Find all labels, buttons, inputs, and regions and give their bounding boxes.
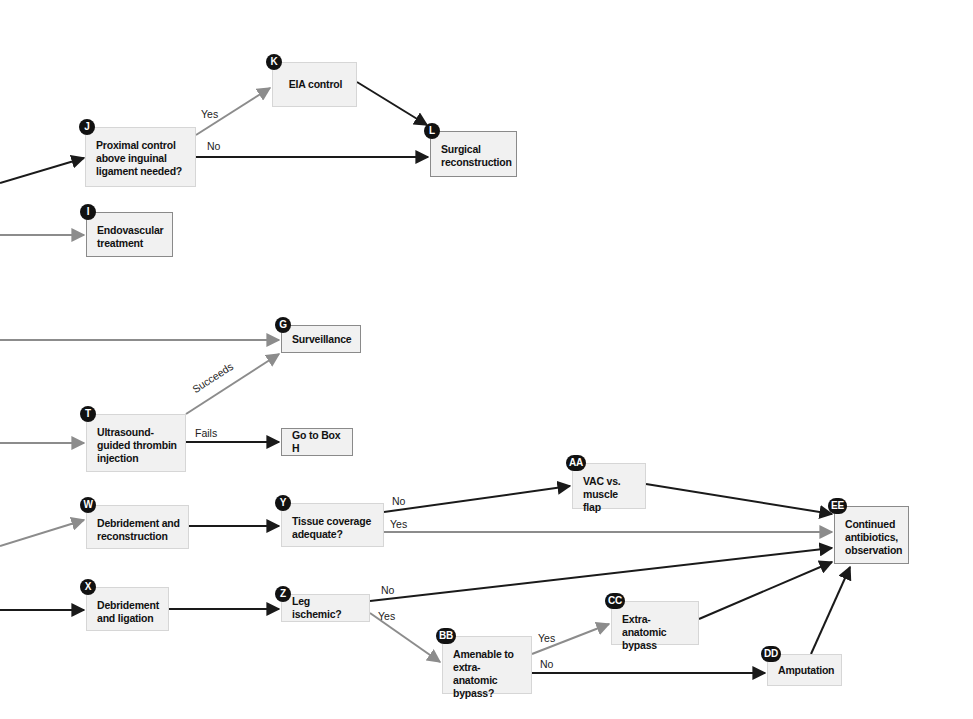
node-X-text: Debridement and ligation xyxy=(97,599,160,625)
label-j-yes: Yes xyxy=(201,108,218,120)
node-K-text: EIA control xyxy=(289,78,342,91)
node-DD: DD Amputation xyxy=(767,654,842,686)
label-bb-no: No xyxy=(540,658,553,670)
node-K: K EIA control xyxy=(272,62,357,107)
badge-G: G xyxy=(275,317,291,333)
edge-into-J xyxy=(0,158,84,183)
edge-DD-EE xyxy=(811,567,850,654)
badge-AA: AA xyxy=(566,455,586,471)
node-Z: Z Leg ischemic? xyxy=(281,594,370,622)
node-H-text: Go to Box H xyxy=(292,429,344,455)
node-Z-text: Leg ischemic? xyxy=(292,595,361,621)
node-EE: EE Continued antibiotics, observation xyxy=(834,506,909,564)
edge-AA-EE xyxy=(646,484,832,514)
node-AA: AA VAC vs. muscle flap xyxy=(572,463,646,509)
badge-CC: CC xyxy=(605,593,625,609)
label-z-no: No xyxy=(381,584,394,596)
node-AA-text: VAC vs. muscle flap xyxy=(583,475,637,514)
node-T-text: Ultrasound- guided thrombin injection xyxy=(97,426,177,465)
label-z-yes: Yes xyxy=(378,610,395,622)
edge-Z-EE-no xyxy=(370,548,832,601)
node-J-text: Proximal control above inguinal ligament… xyxy=(96,139,187,178)
label-y-yes: Yes xyxy=(390,518,407,530)
node-J: J Proximal control above inguinal ligame… xyxy=(85,127,196,187)
node-I-text: Endovascular treatment xyxy=(97,224,164,250)
node-G: G Surveillance xyxy=(281,325,361,353)
badge-J: J xyxy=(79,119,95,135)
badge-K: K xyxy=(266,54,282,70)
node-I: I Endovascular treatment xyxy=(86,212,173,257)
badge-T: T xyxy=(80,406,96,422)
node-DD-text: Amputation xyxy=(778,664,834,677)
node-X: X Debridement and ligation xyxy=(86,587,169,631)
badge-EE: EE xyxy=(828,498,847,514)
node-Y: Y Tissue coverage adequate? xyxy=(281,503,384,547)
node-BB-text: Amenable to extra-anatomic bypass? xyxy=(453,648,523,700)
node-W-text: Debridement and reconstruction xyxy=(97,517,180,543)
edge-K-L xyxy=(357,82,427,125)
node-Y-text: Tissue coverage adequate? xyxy=(292,515,375,541)
badge-L: L xyxy=(424,123,440,139)
label-y-no: No xyxy=(392,495,405,507)
node-T: T Ultrasound- guided thrombin injection xyxy=(86,414,186,472)
node-W: W Debridement and reconstruction xyxy=(86,505,189,549)
edge-Y-AA-no xyxy=(384,486,570,512)
node-G-text: Surveillance xyxy=(292,333,351,346)
badge-X: X xyxy=(80,579,96,595)
edge-into-W xyxy=(0,520,84,546)
badge-BB: BB xyxy=(436,628,456,644)
label-j-no: No xyxy=(207,140,220,152)
badge-I: I xyxy=(80,204,96,220)
badge-W: W xyxy=(80,497,96,513)
label-bb-yes: Yes xyxy=(538,632,555,644)
node-BB: BB Amenable to extra-anatomic bypass? xyxy=(442,636,532,694)
node-L: L Surgical reconstruction xyxy=(430,131,517,177)
node-L-text: Surgical reconstruction xyxy=(441,143,508,169)
badge-DD: DD xyxy=(761,646,781,662)
badge-Z: Z xyxy=(275,586,291,602)
node-CC-text: Extra-anatomic bypass xyxy=(622,613,690,652)
badge-Y: Y xyxy=(275,495,291,511)
edge-CC-EE xyxy=(699,562,832,619)
node-EE-text: Continued antibiotics, observation xyxy=(845,518,900,557)
node-CC: CC Extra-anatomic bypass xyxy=(611,601,699,645)
node-go-to-box-H: Go to Box H xyxy=(281,428,353,456)
label-t-fails: Fails xyxy=(195,427,217,439)
